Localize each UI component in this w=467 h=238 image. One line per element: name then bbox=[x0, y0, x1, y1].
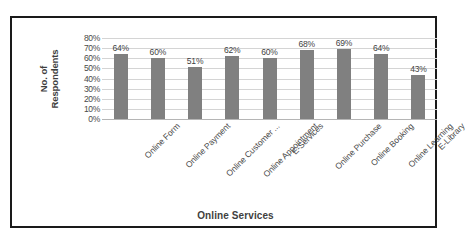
bar bbox=[374, 54, 388, 119]
y-axis-tick: 30% bbox=[58, 85, 100, 93]
chart-frame: No. of Respondents 80%70%60%50%40%30%20%… bbox=[10, 16, 437, 228]
bar bbox=[411, 75, 425, 119]
bar-value-label: 51% bbox=[178, 56, 212, 66]
x-axis-category-label: Online Form bbox=[142, 121, 181, 160]
bar bbox=[337, 49, 351, 119]
y-axis-tick: 60% bbox=[58, 54, 100, 62]
bar-value-label: 68% bbox=[290, 39, 324, 49]
y-axis-tick: 20% bbox=[58, 95, 100, 103]
y-axis-tick: 40% bbox=[58, 75, 100, 83]
bar bbox=[188, 67, 202, 119]
x-axis-title: Online Services bbox=[22, 210, 449, 221]
bar-value-label: 64% bbox=[364, 43, 398, 53]
bar-value-label: 69% bbox=[327, 38, 361, 48]
bar bbox=[151, 58, 165, 119]
bar bbox=[114, 54, 128, 119]
bar bbox=[300, 50, 314, 119]
y-axis-tick: 80% bbox=[58, 34, 100, 42]
bar-value-label: 62% bbox=[215, 45, 249, 55]
bar bbox=[225, 56, 239, 119]
y-axis-tick-labels: 80%70%60%50%40%30%20%10%0% bbox=[58, 38, 100, 119]
x-axis-category-labels: Online FormOnline PaymentOnline Customer… bbox=[102, 121, 447, 201]
y-axis-tick: 10% bbox=[58, 105, 100, 113]
bar-value-label: 43% bbox=[401, 64, 435, 74]
gridline bbox=[102, 119, 437, 120]
y-axis-tick: 0% bbox=[58, 115, 100, 123]
bar-value-label: 64% bbox=[104, 43, 138, 53]
bar-value-label: 60% bbox=[253, 47, 287, 57]
y-axis-tick: 50% bbox=[58, 64, 100, 72]
plot-area: 64%60%51%62%60%68%69%64%43% bbox=[102, 38, 437, 119]
bar bbox=[263, 58, 277, 119]
y-axis-tick: 70% bbox=[58, 44, 100, 52]
bar-value-label: 60% bbox=[141, 47, 175, 57]
gridline bbox=[102, 38, 437, 39]
x-axis-category-label: Online Payment bbox=[183, 121, 232, 170]
